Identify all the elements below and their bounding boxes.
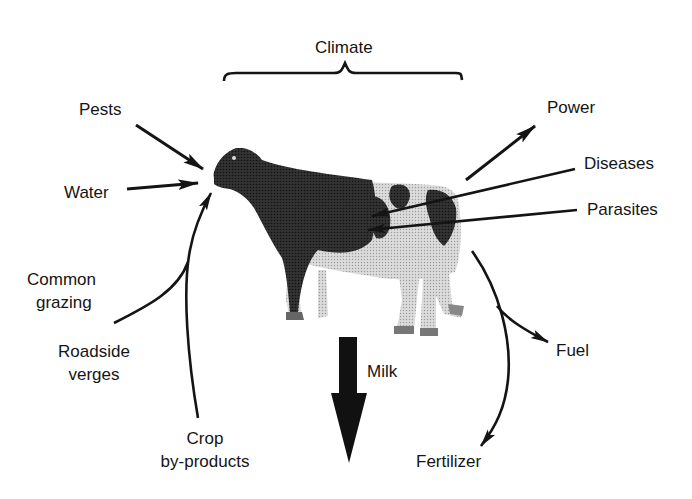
cow-illustration (214, 148, 464, 336)
label-water: Water (64, 181, 109, 204)
label-crop-byproducts-line1: Crop (150, 427, 260, 450)
label-diseases: Diseases (584, 152, 654, 175)
label-roadside-verges-line1: Roadside (50, 340, 138, 363)
label-roadside-verges-line2: verges (50, 363, 138, 386)
arrow-water (127, 183, 198, 189)
label-parasites: Parasites (587, 198, 658, 221)
label-power: Power (547, 96, 595, 119)
label-milk: Milk (367, 360, 397, 383)
label-fuel: Fuel (556, 339, 589, 362)
arrow-power (466, 126, 535, 180)
cow-inputs-outputs-diagram: Climate Pests Water Common grazing Roads… (0, 0, 692, 499)
label-common-grazing-line2: grazing (27, 291, 96, 314)
label-common-grazing: Common grazing (27, 268, 96, 314)
label-crop-byproducts-line2: by-products (150, 450, 260, 473)
arrow-common-grazing (114, 262, 188, 323)
label-pests: Pests (79, 98, 122, 121)
arrow-crop-byproducts (186, 193, 211, 418)
label-common-grazing-line1: Common (27, 268, 96, 291)
diagram-artwork (0, 0, 692, 499)
arrow-pests (136, 125, 203, 169)
arrow-fertilizer (472, 251, 509, 446)
arrow-milk (331, 337, 367, 463)
label-crop-byproducts: Crop by-products (150, 427, 260, 473)
label-roadside-verges: Roadside verges (50, 340, 138, 386)
label-fertilizer: Fertilizer (416, 450, 481, 473)
climate-brace (224, 63, 462, 81)
label-climate: Climate (315, 36, 373, 59)
